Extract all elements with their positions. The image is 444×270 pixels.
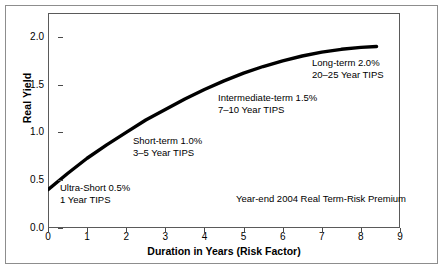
chart-figure: Real Yield 0.00.51.01.52.0 0123456789 Du… [0, 0, 444, 270]
annotation-line-1: Long-term 2.0% [312, 57, 380, 68]
annotation-line-2: 7–10 Year TIPS [218, 104, 317, 116]
annotation-line-1: Ultra-Short 0.5% [60, 182, 130, 193]
x-tick-mark [126, 228, 127, 233]
annotation-ultra-short: Ultra-Short 0.5%1 Year TIPS [60, 182, 130, 205]
annotation-line-2: 3–5 Year TIPS [133, 147, 202, 159]
annotation-line-1: Intermediate-term 1.5% [218, 92, 317, 103]
x-tick-mark [204, 228, 205, 233]
x-tick-mark [165, 228, 166, 233]
annotation-long-term: Long-term 2.0%20–25 Year TIPS [312, 57, 384, 80]
annotation-line-2: 1 Year TIPS [60, 194, 130, 206]
x-tick-mark [361, 228, 362, 233]
x-tick-mark [283, 228, 284, 233]
annotation-intermediate-term: Intermediate-term 1.5%7–10 Year TIPS [218, 92, 317, 115]
annotation-line-1: Short-term 1.0% [133, 135, 202, 146]
x-tick-mark [400, 228, 401, 233]
x-tick-mark [322, 228, 323, 233]
x-axis-ticks: 0123456789 [0, 0, 444, 270]
x-axis-title-label: Duration in Years (Risk Factor) [48, 245, 400, 257]
x-tick-mark [244, 228, 245, 233]
x-tick-mark [87, 228, 88, 233]
annotation-line-2: 20–25 Year TIPS [312, 69, 384, 81]
chart-caption: Year-end 2004 Real Term-Risk Premium [236, 193, 406, 204]
x-tick-mark [48, 228, 49, 233]
annotation-short-term: Short-term 1.0%3–5 Year TIPS [133, 135, 202, 158]
